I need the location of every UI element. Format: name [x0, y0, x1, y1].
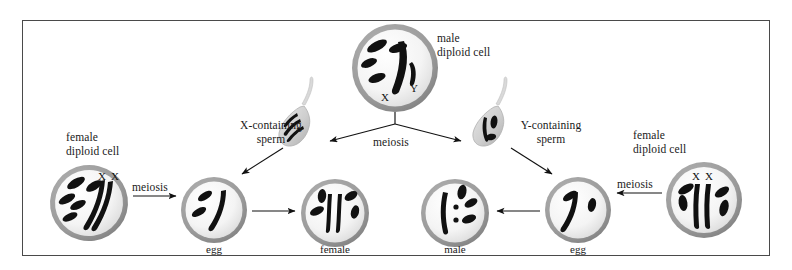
egg-right-label: egg: [548, 243, 608, 255]
offspring-female-cell: [301, 179, 369, 247]
offspring-female-label: female: [305, 243, 365, 255]
y-chromosome-label-male: Y: [410, 82, 419, 94]
offspring-male-cell: [421, 179, 489, 247]
egg-cell-right: [545, 177, 611, 243]
egg-cell-left: [181, 177, 247, 243]
egg-left-label: egg: [184, 243, 244, 255]
male-diploid-cell: [352, 24, 438, 112]
female-diploid-cell-right-label: female diploid cell: [633, 128, 686, 156]
offspring-male-label: male: [425, 243, 485, 255]
female-diploid-cell-left-label: female diploid cell: [66, 130, 119, 158]
meiosis-center-label: meiosis: [373, 135, 409, 149]
xx-chromosome-label-right: X X: [692, 170, 714, 182]
sperm-y: [473, 77, 507, 146]
x-containing-sperm-label: X-containing sperm: [227, 118, 315, 146]
sperm-to-zygote-arrows: [242, 148, 552, 174]
meiosis-right-label: meiosis: [617, 177, 653, 191]
sex-determination-diagram: male diploid cell female diploid cell fe…: [0, 0, 792, 270]
meiosis-left-label: meiosis: [132, 180, 168, 194]
y-containing-sperm-label: Y-containing sperm: [507, 118, 595, 146]
male-diploid-cell-label: male diploid cell: [437, 31, 490, 59]
xx-chromosome-label-left: X X: [98, 170, 120, 182]
x-chromosome-label-male: X: [381, 91, 390, 103]
